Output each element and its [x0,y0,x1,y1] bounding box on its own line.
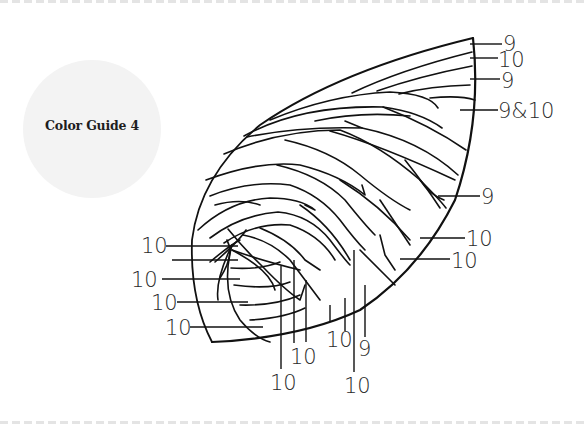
label-bottom-5: 10 [344,374,371,398]
label-bottom-1: 10 [270,371,297,395]
color-labels: 9 10 9 9&10 9 10 10 10 10 10 10 10 10 10… [131,32,554,398]
label-right-top-4: 9&10 [498,99,554,123]
label-bottom-3: 10 [326,328,353,352]
label-right-top-3: 9 [501,69,514,93]
label-right-low-1: 10 [466,227,493,251]
label-right-low-2: 10 [451,249,478,273]
leaf-diagram: 9 10 9 9&10 9 10 10 10 10 10 10 10 10 10… [0,0,586,424]
leaf-outline [192,38,475,342]
label-bottom-4: 9 [358,337,371,361]
label-left-4: 10 [165,316,192,340]
label-left-3: 10 [151,291,178,315]
label-left-2: 10 [131,268,158,292]
label-right-mid: 9 [481,185,494,209]
label-bottom-2: 10 [290,345,317,369]
label-left-1: 10 [141,234,168,258]
